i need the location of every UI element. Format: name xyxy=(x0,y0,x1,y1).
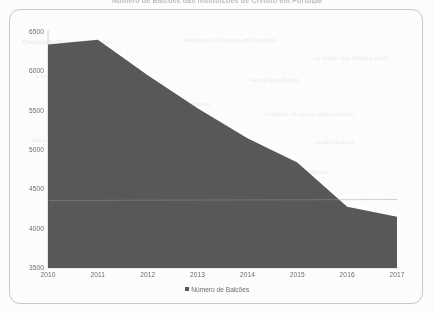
y-tick-label: 3500 xyxy=(18,264,44,271)
x-tick-label: 2014 xyxy=(232,271,262,278)
y-tick-label: 5500 xyxy=(18,107,44,114)
x-tick-label: 2017 xyxy=(382,271,412,278)
y-tick-label: 5000 xyxy=(18,146,44,153)
chart-plot-area: 3500400045005000550060006500 20102011201… xyxy=(0,0,434,313)
x-tick-label: 2012 xyxy=(133,271,163,278)
page-root: Número de Balcões das Instituições de Cr… xyxy=(0,0,434,313)
legend-swatch-icon xyxy=(185,287,189,291)
x-tick-label: 2013 xyxy=(183,271,213,278)
x-tick-label: 2016 xyxy=(332,271,362,278)
y-tick-label: 6000 xyxy=(18,67,44,74)
series-group xyxy=(48,40,397,268)
y-tick-label: 6500 xyxy=(18,28,44,35)
y-tick-label: 4000 xyxy=(18,225,44,232)
chart-legend: Número de Balcões xyxy=(0,285,434,293)
series-area-numero-de-balcoes xyxy=(48,40,397,268)
x-tick-label: 2010 xyxy=(33,271,63,278)
x-tick-label: 2015 xyxy=(282,271,312,278)
area-chart-svg xyxy=(0,0,434,313)
legend-label: Número de Balcões xyxy=(191,286,249,293)
y-tick-label: 4500 xyxy=(18,185,44,192)
x-tick-label: 2011 xyxy=(83,271,113,278)
